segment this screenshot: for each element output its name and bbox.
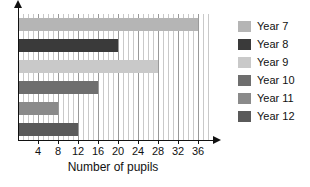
legend-swatch-icon: [238, 93, 251, 104]
y-axis-arrow-icon: [14, 0, 22, 8]
legend-item-year-12[interactable]: Year 12: [238, 107, 310, 125]
x-tick-label: 36: [192, 145, 204, 158]
bar-year-10[interactable]: [18, 81, 98, 94]
legend-item-year-11[interactable]: Year 11: [238, 89, 310, 107]
bar-slot: [18, 102, 208, 115]
y-axis-line: [18, 6, 19, 140]
bar-slot: [18, 60, 208, 73]
x-tick: [58, 140, 59, 144]
legend-item-year-7[interactable]: Year 7: [238, 17, 310, 35]
legend-swatch-icon: [238, 39, 251, 50]
legend-label: Year 10: [257, 74, 295, 87]
legend-swatch-icon: [238, 21, 251, 32]
bar-year-12[interactable]: [18, 123, 78, 136]
x-tick: [98, 140, 99, 144]
x-tick-label: 20: [112, 145, 124, 158]
bar-series: [18, 14, 208, 140]
x-tick: [78, 140, 79, 144]
x-tick-label: 24: [132, 145, 144, 158]
bar-slot: [18, 81, 208, 94]
legend-label: Year 7: [257, 20, 288, 33]
x-tick-label: 12: [72, 145, 84, 158]
bar-slot: [18, 39, 208, 52]
x-axis-tick-labels: 4812162024283236: [18, 145, 208, 159]
bar-chart: 4812162024283236 Number of pupils Year 7…: [0, 0, 310, 187]
plot-area: [18, 14, 208, 140]
x-tick: [158, 140, 159, 144]
legend: Year 7Year 8Year 9Year 10Year 11Year 12: [238, 17, 310, 125]
bar-slot: [18, 18, 208, 31]
legend-item-year-10[interactable]: Year 10: [238, 71, 310, 89]
bar-year-9[interactable]: [18, 60, 158, 73]
x-tick: [38, 140, 39, 144]
x-tick-label: 16: [92, 145, 104, 158]
x-tick: [118, 140, 119, 144]
bar-year-7[interactable]: [18, 18, 198, 31]
x-axis-arrow-icon: [213, 136, 221, 144]
legend-label: Year 12: [257, 110, 295, 123]
plot-wrapper: 4812162024283236 Number of pupils: [0, 0, 232, 187]
legend-item-year-9[interactable]: Year 9: [238, 53, 310, 71]
x-tick-label: 32: [172, 145, 184, 158]
bar-year-8[interactable]: [18, 39, 118, 52]
legend-swatch-icon: [238, 75, 251, 86]
legend-swatch-icon: [238, 57, 251, 68]
x-tick: [138, 140, 139, 144]
gridline: [208, 14, 209, 140]
x-tick: [178, 140, 179, 144]
x-tick-label: 4: [35, 145, 41, 158]
bar-slot: [18, 123, 208, 136]
x-tick-label: 8: [55, 145, 61, 158]
legend-label: Year 9: [257, 56, 288, 69]
x-tick: [198, 140, 199, 144]
legend-label: Year 8: [257, 38, 288, 51]
legend-label: Year 11: [257, 92, 294, 105]
bar-year-11[interactable]: [18, 102, 58, 115]
x-tick-label: 28: [152, 145, 164, 158]
x-axis-title: Number of pupils: [18, 160, 208, 175]
legend-swatch-icon: [238, 111, 251, 122]
legend-item-year-8[interactable]: Year 8: [238, 35, 310, 53]
